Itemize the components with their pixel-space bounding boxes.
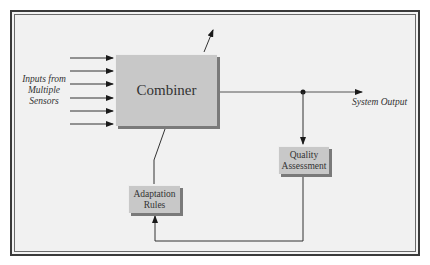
adaptation-label-line2: Rules <box>133 200 175 211</box>
upward-arrow <box>204 30 213 52</box>
input-arrows <box>70 58 113 124</box>
quality-label-line2: Assessment <box>282 161 327 172</box>
inputs-label-line1: Inputs from <box>18 74 70 85</box>
combiner-label: Combiner <box>137 82 197 99</box>
inputs-label-line2: Multiple <box>18 85 70 96</box>
quality-assessment-block: Quality Assessment <box>278 146 329 174</box>
adaptation-rules-block: Adaptation Rules <box>128 185 180 213</box>
combiner-block: Combiner <box>115 54 217 126</box>
diagram-connectors <box>0 0 430 265</box>
system-output-label: System Output <box>352 97 407 108</box>
inputs-label: Inputs from Multiple Sensors <box>18 74 70 107</box>
inputs-label-line3: Sensors <box>18 96 70 107</box>
quality-label-line1: Quality <box>282 150 327 161</box>
adaptation-label-line1: Adaptation <box>133 189 175 200</box>
adaptation-to-combiner <box>154 129 165 184</box>
